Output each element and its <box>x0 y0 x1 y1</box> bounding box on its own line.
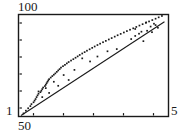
chart-figure: 100 1 50 5 <box>0 0 183 139</box>
scatter-plot-canvas <box>0 0 183 139</box>
plot-frame <box>19 15 169 117</box>
